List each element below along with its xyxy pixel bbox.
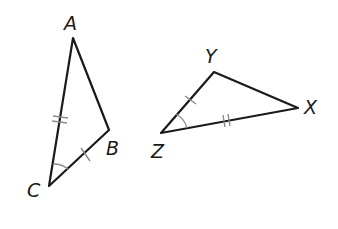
vertex-label-y: Y [205, 45, 218, 67]
vertex-label-x: X [303, 96, 318, 118]
vertex-label-a: A [62, 12, 77, 34]
vertex-label-b: B [106, 137, 119, 159]
vertex-label-c: C [27, 179, 41, 201]
triangle-abc: A B C [27, 12, 119, 201]
congruent-triangles-diagram: A B C Y X Z [0, 0, 338, 229]
angle-arc-c [54, 164, 69, 169]
angle-arc-z [176, 114, 187, 128]
vertex-label-z: Z [150, 140, 165, 162]
triangle-xyz: Y X Z [150, 45, 318, 162]
